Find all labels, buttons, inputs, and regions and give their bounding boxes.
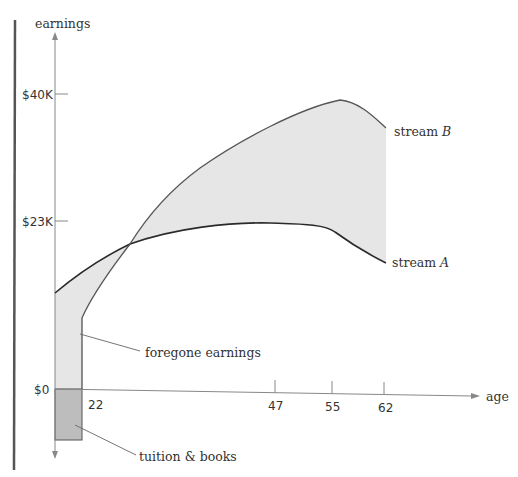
net-gain-area (130, 100, 386, 263)
y-tick-label-23k: $23K (22, 215, 54, 229)
stream-a-label: stream A (392, 255, 449, 270)
x-axis-label: age (486, 389, 509, 404)
tuition-books-area (55, 389, 82, 440)
x-axis (55, 389, 472, 396)
x-axis-arrow-icon (471, 393, 480, 399)
y-tick-label-40k: $40K (22, 88, 54, 102)
earnings-chart: earnings $40K $23K $0 22 47 55 62 age st… (0, 0, 518, 477)
stream-b-label: stream B (394, 124, 451, 139)
stream-b-label-letter: B (441, 124, 451, 139)
tuition-leader-line (75, 425, 136, 455)
foregone-leader-line (80, 334, 140, 351)
x-tick-label-62: 62 (378, 401, 393, 415)
x-tick-label-55: 55 (325, 400, 340, 414)
y-axis-arrow-down-icon (52, 451, 58, 459)
tuition-books-label: tuition & books (139, 449, 237, 464)
y-tick-label-0: $0 (34, 383, 49, 397)
stream-b-label-prefix: stream (394, 124, 442, 139)
y-axis-arrow-up-icon (52, 32, 58, 40)
stream-a-label-prefix: stream (392, 255, 440, 270)
foregone-earnings-label: foregone earnings (145, 345, 261, 360)
stream-a-label-letter: A (439, 255, 449, 270)
page-border (14, 20, 15, 470)
x-tick-label-47: 47 (268, 399, 283, 413)
y-axis-label: earnings (35, 16, 90, 31)
x-tick-label-22: 22 (88, 398, 103, 412)
stream-a-line (55, 223, 386, 293)
